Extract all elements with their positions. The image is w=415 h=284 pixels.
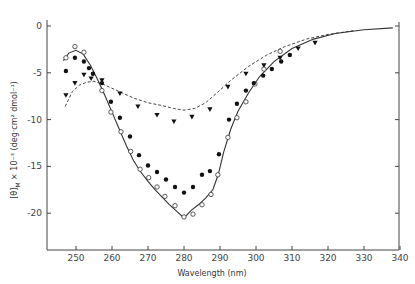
curves	[63, 28, 392, 218]
triangle-marker	[171, 119, 176, 124]
triangle-marker	[117, 91, 122, 96]
filled-circle-marker	[109, 100, 113, 104]
filled-circle-marker	[182, 190, 186, 194]
open-circle-marker	[182, 215, 186, 219]
triangle-marker	[135, 104, 140, 109]
open-circle-marker	[163, 194, 167, 198]
x-tick-label: 320	[319, 253, 336, 263]
filled-circle-marker	[82, 59, 86, 63]
filled-circle-marker	[173, 185, 177, 189]
filled-circle-marker	[128, 134, 132, 138]
y-tick-label: -10	[27, 115, 42, 125]
open-circle-marker	[235, 116, 239, 120]
filled-circle-marker	[164, 177, 168, 181]
triangle-marker	[296, 46, 301, 51]
filled-circle-marker	[146, 163, 150, 167]
filled-circle-marker	[261, 73, 265, 77]
triangle-marker	[89, 76, 94, 81]
y-axis-label: [θ]M × 10⁻³ (deg·cm² dmol⁻¹)	[10, 81, 21, 199]
triangle-marker	[225, 85, 230, 90]
filled-circle-marker	[217, 152, 221, 156]
open-circle-marker	[100, 88, 104, 92]
dashed-curve	[65, 31, 353, 111]
x-tick-label: 270	[139, 253, 156, 263]
filled-circle-marker	[235, 101, 239, 105]
data-markers	[63, 41, 317, 219]
triangle-marker	[72, 81, 77, 86]
filled-circle-marker	[137, 153, 141, 157]
filled-circle-marker	[208, 169, 212, 173]
triangle-marker	[154, 113, 159, 118]
x-tick-label: 300	[247, 253, 264, 263]
triangle-marker	[81, 73, 86, 78]
triangle-marker	[312, 41, 317, 46]
open-circle-marker	[119, 130, 123, 134]
open-circle-marker	[109, 110, 113, 114]
y-tick-label: -20	[27, 208, 42, 218]
svg-text:[θ]M × 10⁻³ (deg·cm² dmol⁻¹): [θ]M × 10⁻³ (deg·cm² dmol⁻¹)	[10, 81, 21, 199]
y-tick-label: -5	[33, 68, 42, 78]
axes-frame	[47, 20, 399, 250]
x-tick-label: 330	[355, 253, 372, 263]
triangle-marker	[189, 115, 194, 120]
x-ticks: 250260270280290300310320330340	[67, 246, 408, 263]
open-circle-marker	[138, 167, 142, 171]
y-label-units: × 10⁻³ (deg·cm² dmol⁻¹)	[10, 81, 19, 182]
filled-circle-marker	[227, 117, 231, 121]
x-tick-label: 250	[67, 253, 84, 263]
open-circle-marker	[216, 173, 220, 177]
open-circle-marker	[129, 149, 133, 153]
x-tick-label: 260	[103, 253, 120, 263]
open-circle-marker	[278, 49, 282, 53]
triangle-marker	[207, 107, 212, 112]
filled-circle-marker	[279, 59, 283, 63]
filled-circle-marker	[270, 67, 274, 71]
x-tick-label: 290	[211, 253, 228, 263]
x-tick-label: 310	[283, 253, 300, 263]
x-tick-label: 280	[175, 253, 192, 263]
open-circle-marker	[209, 192, 213, 196]
y-tick-label: 0	[36, 21, 42, 31]
filled-circle-marker	[87, 66, 91, 70]
filled-circle-marker	[200, 173, 204, 177]
filled-circle-marker	[118, 116, 122, 120]
filled-circle-marker	[191, 185, 195, 189]
triangle-marker	[63, 93, 68, 98]
open-circle-marker	[191, 212, 195, 216]
filled-circle-marker	[155, 170, 159, 174]
cd-spectrum-chart: 250260270280290300310320330340 0-5-10-15…	[0, 0, 415, 284]
open-circle-marker	[82, 50, 86, 54]
filled-circle-marker	[73, 56, 77, 60]
right-ticks	[395, 26, 399, 213]
solid-curve	[63, 28, 392, 218]
open-circle-marker	[73, 44, 77, 48]
filled-circle-marker	[91, 72, 95, 76]
open-circle-marker	[64, 56, 68, 60]
y-label-theta: [θ]	[10, 188, 19, 199]
open-circle-marker	[173, 204, 177, 208]
y-tick-label: -15	[27, 161, 42, 171]
filled-circle-marker	[252, 81, 256, 85]
open-circle-marker	[147, 175, 151, 179]
filled-circle-marker	[64, 69, 68, 73]
x-axis-label: Wavelength (nm)	[177, 269, 246, 278]
x-tick-label: 340	[391, 253, 408, 263]
open-circle-marker	[155, 185, 159, 189]
triangle-marker	[243, 72, 248, 77]
filled-circle-marker	[244, 88, 248, 92]
open-circle-marker	[200, 203, 204, 207]
filled-circle-marker	[288, 53, 292, 57]
open-circle-marker	[244, 100, 248, 104]
open-circle-marker	[226, 135, 230, 139]
